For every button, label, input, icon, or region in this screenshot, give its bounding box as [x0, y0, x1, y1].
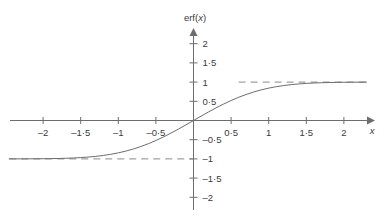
y-tick-label-7: –2 — [203, 192, 214, 203]
x-tick-label-6: 1·5 — [299, 127, 313, 138]
y-tick-label-2: 1 — [203, 77, 208, 88]
y-tick-label-6: –1·5 — [203, 173, 222, 184]
x-tick-label-7: 2 — [341, 127, 346, 138]
y-tick-label-4: –0·5 — [203, 134, 222, 145]
x-tick-label-1: –1·5 — [71, 127, 90, 138]
y-tick-label-0: 2 — [203, 38, 208, 49]
x-tick-label-0: –2 — [38, 127, 49, 138]
y-axis-title: erf(x) — [184, 12, 206, 23]
erf-function-plot: –2–1·5–1–0·50·511·52 21·510·5–0·5–1–1·5–… — [0, 0, 384, 223]
x-tick-label-4: 0·5 — [224, 127, 238, 138]
y-tick-label-5: –1 — [203, 153, 214, 164]
chart-figure: –2–1·5–1–0·50·511·52 21·510·5–0·5–1–1·5–… — [0, 0, 384, 223]
x-tick-label-5: 1 — [266, 127, 271, 138]
y-tick-label-3: 0·5 — [203, 96, 217, 107]
x-tick-label-2: –1 — [113, 127, 124, 138]
x-tick-label-3: –0·5 — [146, 127, 165, 138]
y-tick-label-1: 1·5 — [203, 57, 217, 68]
